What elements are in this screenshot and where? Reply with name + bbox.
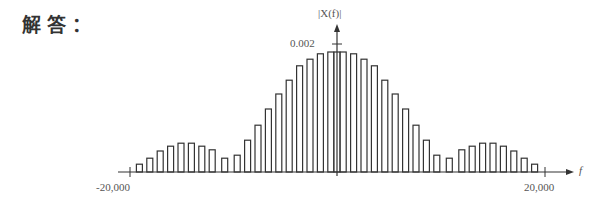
spectrum-bar bbox=[521, 158, 527, 172]
spectrum-chart bbox=[0, 0, 605, 203]
spectrum-bar bbox=[434, 155, 440, 172]
spectrum-bar bbox=[392, 94, 398, 172]
spectrum-bar bbox=[307, 59, 313, 172]
spectrum-bar bbox=[255, 125, 261, 172]
x-tick-label-left: -20,000 bbox=[96, 181, 130, 193]
spectrum-bar bbox=[222, 158, 228, 172]
x-tick-label-right: 20,000 bbox=[524, 181, 554, 193]
spectrum-bar bbox=[286, 80, 292, 172]
spectrum-bar bbox=[511, 151, 517, 172]
spectrum-bar bbox=[500, 146, 506, 172]
spectrum-bar bbox=[351, 54, 357, 172]
spectrum-bar bbox=[136, 164, 142, 172]
spectrum-bar bbox=[234, 155, 240, 172]
spectrum-bar bbox=[361, 59, 367, 172]
spectrum-bar bbox=[532, 164, 538, 172]
spectrum-bar bbox=[265, 109, 271, 172]
spectrum-bar bbox=[480, 143, 486, 172]
y-axis-arrow-icon bbox=[334, 24, 340, 32]
spectrum-bar bbox=[147, 158, 153, 172]
spectrum-bar bbox=[168, 146, 174, 172]
spectrum-bar bbox=[276, 94, 282, 172]
y-tick-label: 0.002 bbox=[290, 37, 315, 49]
spectrum-bar bbox=[317, 54, 323, 172]
spectrum-bar bbox=[297, 66, 303, 172]
spectrum-bar bbox=[157, 151, 163, 172]
spectrum-bar bbox=[382, 80, 388, 172]
x-axis-label: f bbox=[579, 164, 582, 176]
spectrum-bar bbox=[371, 66, 377, 172]
spectrum-bar bbox=[199, 146, 205, 172]
spectrum-bar bbox=[459, 150, 465, 172]
spectrum-bar bbox=[446, 158, 452, 172]
spectrum-bar bbox=[340, 52, 346, 172]
spectrum-bar bbox=[490, 143, 496, 172]
y-axis-label: |X(f)| bbox=[318, 7, 341, 19]
spectrum-bar bbox=[178, 143, 184, 172]
spectrum-bar bbox=[245, 140, 251, 172]
spectrum-bar bbox=[423, 140, 429, 172]
spectrum-bar bbox=[403, 109, 409, 172]
spectrum-bar bbox=[188, 143, 194, 172]
spectrum-bar bbox=[413, 125, 419, 172]
spectrum-bar bbox=[209, 150, 215, 172]
x-axis-arrow-icon bbox=[566, 169, 574, 175]
spectrum-bar bbox=[469, 146, 475, 172]
spectrum-bar bbox=[328, 52, 334, 172]
